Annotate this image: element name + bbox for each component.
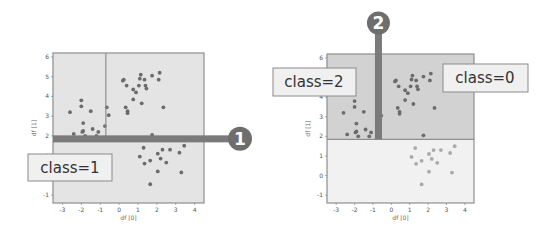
data-point [453,144,457,148]
data-point [126,111,130,115]
data-point [178,151,182,155]
x-tick-label: 1 [408,206,412,213]
data-point [435,161,439,165]
y-tick-label: 6 [45,53,49,60]
callout-class-0-label: class=0 [455,69,514,87]
data-point [422,133,426,137]
data-point [398,112,402,116]
x-tick-label: 2 [426,206,430,213]
data-point [145,87,149,91]
data-point [156,170,160,174]
data-point [156,152,160,156]
data-point [143,162,147,166]
right-y-axis-label: df [1] [304,120,311,136]
data-point [413,146,417,150]
x-tick-label: -1 [97,206,103,213]
callout-class-0: class=0 [443,64,528,92]
x-tick-label: 3 [445,206,449,213]
data-point [428,79,432,83]
data-point [429,72,433,76]
data-point [124,105,128,109]
x-tick-label: 4 [463,206,467,213]
data-point [79,98,83,102]
data-point [80,130,84,134]
y-tick-label: 2 [45,132,49,139]
data-point [91,127,95,131]
data-point [397,84,401,88]
data-point [164,161,168,165]
badge-2-label: 2 [373,13,385,33]
split-1-bar [53,135,233,142]
data-point [161,148,165,152]
x-tick-label: -3 [333,206,339,213]
data-point [427,170,431,174]
data-point [148,182,152,186]
split-2-bar [375,22,382,139]
callout-class-1-label: class=1 [40,159,99,177]
data-point [131,88,135,92]
data-point [410,78,414,82]
data-point [345,132,349,136]
callout-class-1: class=1 [28,154,112,181]
y-tick-label: 0 [319,172,323,179]
data-point [354,131,358,135]
data-point [138,77,142,81]
x-tick-label: 3 [174,206,178,213]
data-point [81,121,85,125]
data-point [394,79,398,83]
x-tick-label: 4 [193,206,197,213]
decision-tree-diagram: -3-2-101234 -10123456 df [0] df [1] 1 cl… [0,0,557,238]
right-x-ticks: -3-2-101234 [333,203,467,213]
y-tick-label: 4 [45,92,49,99]
data-point [140,101,144,105]
data-point [396,106,400,110]
badge-1: 1 [228,127,252,151]
data-point [411,74,415,78]
y-tick-label: 2 [319,132,323,139]
x-tick-label: -3 [59,206,65,213]
y-tick-label: 3 [45,112,49,119]
x-tick-label: 1 [136,206,140,213]
left-scatter-plot: -3-2-101234 -10123456 df [0] df [1] 1 cl… [28,53,252,221]
y-tick-label: 6 [319,54,323,61]
data-point [448,151,452,155]
left-x-ticks: -3-2-101234 [59,203,196,213]
badge-2: 2 [367,12,390,35]
data-point [427,152,431,156]
data-point [416,87,420,91]
data-point [125,84,129,88]
data-point [138,155,142,159]
y-tick-label: 5 [45,73,49,80]
data-point [162,105,166,109]
left-y-axis-label: df [1] [30,120,37,136]
data-point [79,104,83,108]
y-tick-label: -1 [317,191,323,198]
x-tick-label: -2 [352,206,358,213]
data-point [450,171,454,175]
data-point [411,102,415,106]
data-point [131,97,135,101]
data-point [148,159,152,163]
data-point [137,84,141,88]
data-point [420,159,424,163]
data-point [362,110,366,114]
data-point [403,98,407,102]
data-point [406,91,410,95]
callout-class-2-label: class=2 [284,73,343,91]
data-point [96,130,100,134]
data-point [142,146,146,150]
data-point [157,78,161,82]
data-point [432,148,436,152]
data-point [414,79,418,83]
data-point [179,171,183,175]
x-tick-label: -2 [78,206,84,213]
data-point [159,157,163,161]
data-point [139,73,143,77]
x-tick-label: 0 [117,206,121,213]
data-point [342,111,346,115]
data-point [355,122,359,126]
data-point [353,99,357,103]
data-point [107,113,111,117]
data-point [68,110,72,114]
data-point [369,131,373,135]
